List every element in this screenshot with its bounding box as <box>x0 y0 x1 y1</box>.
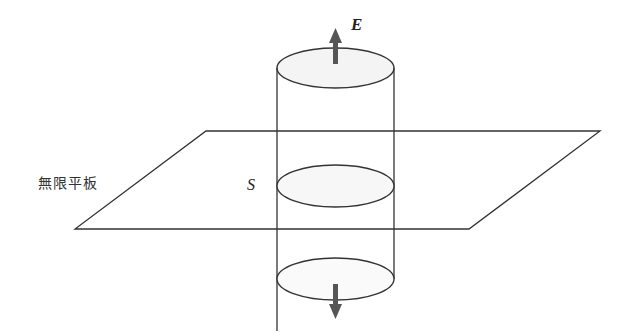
surface-s <box>277 165 394 207</box>
field-label: E <box>351 15 362 35</box>
surface-label: S <box>247 176 255 194</box>
gauss-cylinder-diagram <box>0 0 635 332</box>
plate-label: 無限平板 <box>38 172 98 192</box>
